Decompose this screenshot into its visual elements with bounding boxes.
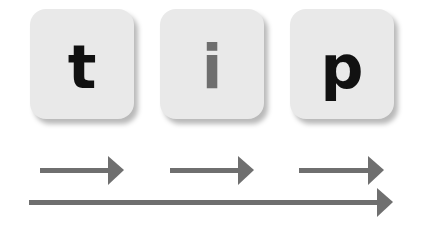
arrow-right-icon: [299, 156, 384, 185]
arrows-diagram: [0, 0, 421, 237]
arrow-right-icon: [170, 156, 254, 185]
long-arrow-right-icon: [29, 188, 393, 217]
arrow-right-icon: [40, 156, 124, 185]
